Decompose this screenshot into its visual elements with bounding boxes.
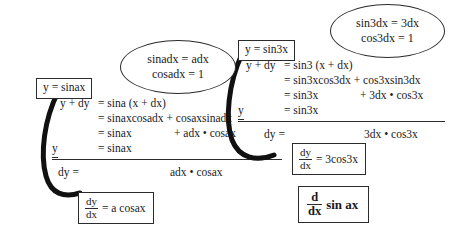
callout-ellipse-right: sin3dx = 3dx cos3dx = 1: [330, 4, 445, 58]
general-result-operand: sin ax: [326, 197, 358, 213]
row-tail: + 3dx • cos3x: [360, 88, 423, 103]
result-box-dy-dx-a-cosax: dy dx = a cosax: [78, 192, 154, 224]
fraction-numerator: dy: [85, 196, 98, 209]
connector-curve-left: [40, 92, 110, 204]
fraction-numerator: d: [307, 191, 322, 205]
fraction-numerator: dy: [299, 147, 312, 160]
fraction-denominator: dx: [307, 205, 322, 218]
result-box-left-rhs: = a cosax: [102, 202, 146, 214]
figure-canvas: sinadx = adx cosadx = 1 sin3dx = 3dx cos…: [0, 0, 453, 236]
row-rel: = sinaxcosadx + cosaxsinadx: [98, 111, 232, 126]
fraction-denominator: dx: [85, 209, 98, 221]
result-rhs: 3dx • cos3x: [364, 125, 418, 143]
fraction-d-dx: d dx: [307, 191, 322, 218]
fraction-dy-dx: dy dx: [85, 196, 98, 220]
callout-right-line-2: cos3dx = 1: [361, 31, 414, 46]
callout-right-line-1: sin3dx = 3dx: [356, 16, 419, 31]
callout-left-line-1: sinadx = adx: [147, 52, 208, 67]
fraction-dy-dx: dy dx: [299, 147, 312, 171]
result-rhs: adx • cosax: [170, 163, 223, 181]
result-box-general-d-dx-sin-ax: d dx sin ax: [298, 186, 369, 223]
result-box-dy-dx-3cos3x: dy dx = 3cos3x: [292, 143, 366, 175]
callout-ellipse-left: sinadx = adx cosadx = 1: [120, 40, 236, 94]
label-box-y-equals-sin3x: y = sin3x: [238, 40, 295, 61]
fraction-denominator: dx: [299, 160, 312, 172]
callout-left-line-2: cosadx = 1: [152, 67, 204, 82]
label-box-y-equals-sinax: y = sinax: [36, 78, 92, 99]
result-box-right-rhs: = 3cos3x: [316, 153, 358, 165]
